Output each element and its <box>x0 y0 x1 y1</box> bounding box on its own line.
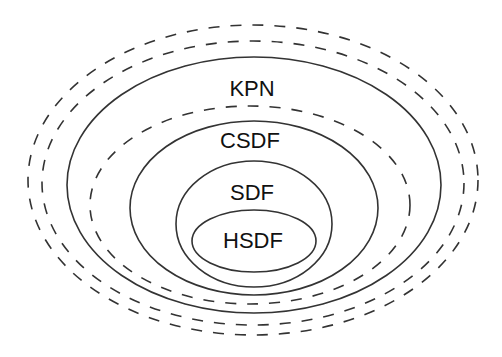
kpn-label: KPN <box>229 76 274 101</box>
sdf-label: SDF <box>230 180 274 205</box>
nested-sets-diagram: KPN CSDF SDF HSDF <box>0 0 502 357</box>
hsdf-label: HSDF <box>223 228 283 253</box>
csdf-label: CSDF <box>220 128 280 153</box>
